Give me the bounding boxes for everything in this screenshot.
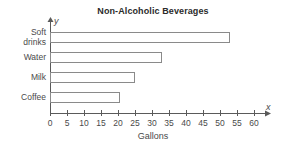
category-label-line: Coffee <box>0 92 46 102</box>
x-tick-label-45: 45 <box>195 118 211 128</box>
category-label-milk: Milk <box>0 72 46 82</box>
x-tick-label-40: 40 <box>178 118 194 128</box>
x-tick-label-15: 15 <box>93 118 109 128</box>
chart-container: Non-Alcoholic Beverages SoftdrinksWaterM… <box>0 0 306 148</box>
category-label-soft-drinks: Softdrinks <box>0 27 46 47</box>
y-axis-name: y <box>54 16 59 26</box>
x-tick-label-30: 30 <box>144 118 160 128</box>
bar-milk <box>50 72 135 83</box>
x-tick-label-55: 55 <box>229 118 245 128</box>
category-label-coffee: Coffee <box>0 92 46 102</box>
category-label-line: Water <box>0 52 46 62</box>
y-axis-arrow <box>48 17 54 22</box>
bar-coffee <box>50 92 120 103</box>
x-tick-label-60: 60 <box>246 118 262 128</box>
category-label-line: Milk <box>0 72 46 82</box>
x-tick-label-35: 35 <box>161 118 177 128</box>
x-tick-label-20: 20 <box>110 118 126 128</box>
bar-water <box>50 52 162 63</box>
x-axis-name: x <box>266 102 271 112</box>
x-tick-label-25: 25 <box>127 118 143 128</box>
x-tick-label-10: 10 <box>76 118 92 128</box>
x-tick-label-50: 50 <box>212 118 228 128</box>
x-tick-label-0: 0 <box>42 118 58 128</box>
bar-soft-drinks <box>50 32 230 43</box>
x-axis-title: Gallons <box>0 131 306 141</box>
category-label-line: Soft <box>0 27 46 37</box>
plot-area: SoftdrinksWaterMilkCoffee 05101520253035… <box>0 0 306 148</box>
category-label-water: Water <box>0 52 46 62</box>
x-tick-label-5: 5 <box>59 118 75 128</box>
category-label-line: drinks <box>0 37 46 47</box>
